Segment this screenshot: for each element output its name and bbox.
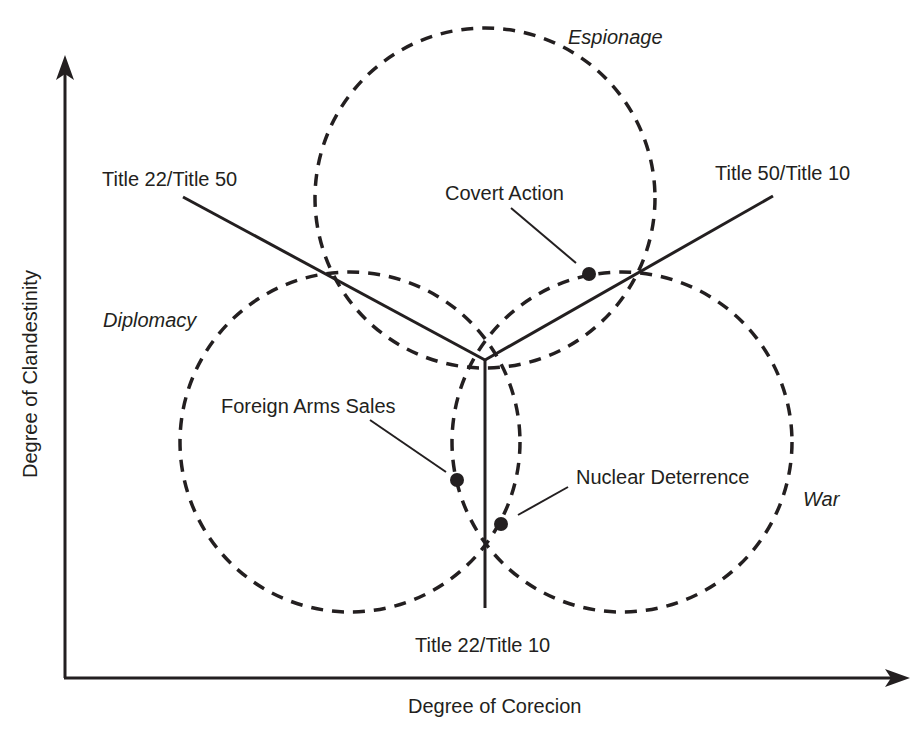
- activity-points: [450, 267, 596, 531]
- foreign-arms-sales-leader: [370, 420, 446, 472]
- nuclear-deterrence-point: [494, 517, 508, 531]
- diplomacy-circle: [180, 272, 520, 612]
- nuclear-deterrence-label: Nuclear Deterrence: [576, 466, 749, 488]
- covert-action-label: Covert Action: [445, 182, 564, 204]
- boundary-title50-title10: [485, 196, 773, 360]
- title22-title10-label: Title 22/Title 10: [415, 634, 550, 656]
- covert-action-point: [582, 267, 596, 281]
- foreign-arms-sales-label: Foreign Arms Sales: [221, 395, 396, 417]
- y-axis-label: Degree of Clandestinity: [19, 270, 41, 478]
- war-label: War: [803, 488, 841, 510]
- covert-action-leader: [511, 208, 576, 263]
- x-axis-label: Degree of Corecion: [408, 695, 581, 717]
- title50-title10-label: Title 50/Title 10: [715, 162, 850, 184]
- diplomacy-label: Diplomacy: [103, 309, 197, 331]
- war-circle: [452, 272, 792, 612]
- boundary-title22-title50: [183, 197, 485, 360]
- espionage-label: Espionage: [568, 26, 663, 48]
- foreign-arms-sales-point: [450, 473, 464, 487]
- nuclear-deterrence-leader: [518, 487, 568, 515]
- title22-title50-label: Title 22/Title 50: [102, 168, 237, 190]
- clandestinity-coercion-diagram: Espionage Diplomacy War Title 22/Title 5…: [0, 0, 920, 734]
- axes: [56, 55, 910, 687]
